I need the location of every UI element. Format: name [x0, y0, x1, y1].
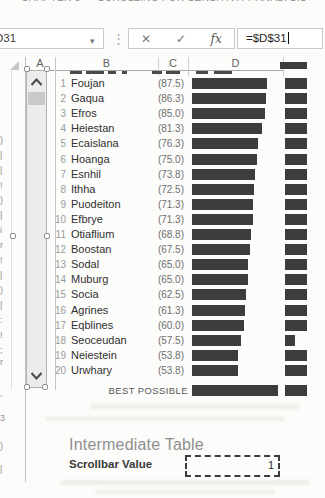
table-row[interactable]: 14 Muburg (65.0): [0, 272, 325, 287]
row-value: (72.5): [138, 182, 184, 197]
score-bar: [192, 93, 266, 104]
table-row[interactable]: 9 Puodeiton (71.3): [0, 197, 325, 212]
row-value: (62.5): [138, 287, 184, 302]
delta-bar: [285, 123, 307, 134]
best-delta-bar: [285, 385, 307, 396]
page-showthrough: [90, 404, 300, 409]
selection-handle[interactable]: [24, 66, 30, 72]
cancel-icon[interactable]: ✕: [141, 32, 151, 46]
column-header-c[interactable]: C: [158, 57, 188, 70]
table-row[interactable]: 7 Esnhil (73.8): [0, 167, 325, 182]
scroll-down-icon[interactable]: [29, 371, 44, 381]
delta-bar: [285, 138, 307, 149]
delta-bar: [285, 78, 307, 89]
clipped-glyph: |: [0, 211, 8, 220]
table-row[interactable]: 2 Gaqua (86.3): [0, 91, 325, 106]
column-header-d[interactable]: D: [188, 57, 283, 70]
clipped-text-mark: [108, 71, 116, 74]
selection-handle[interactable]: [44, 66, 50, 72]
row-value: (67.5): [138, 242, 184, 257]
delta-bar: [285, 244, 307, 255]
delta-bar: [285, 229, 307, 240]
row-name: Socia: [71, 287, 99, 302]
clipped-row-delta-bar: [280, 62, 307, 69]
scrollbar-value: 1: [187, 457, 278, 474]
delta-bar: [285, 274, 307, 285]
score-bar: [192, 365, 238, 376]
delta-bar: [285, 320, 307, 331]
table-row[interactable]: 20 Urwhary (53.8): [0, 363, 325, 378]
table-row[interactable]: 8 Ithha (72.5): [0, 182, 325, 197]
delta-bar: [285, 305, 307, 316]
selection-handle[interactable]: [10, 233, 16, 239]
clipped-glyph: |: [0, 151, 8, 160]
score-bar: [192, 108, 265, 119]
best-possible-label: BEST POSSIBLE: [80, 383, 188, 398]
gridline: [188, 57, 189, 76]
table-row[interactable]: 18 Seoceudan (57.5): [0, 333, 325, 348]
clipped-text-mark: [196, 71, 208, 74]
row-value: (81.3): [138, 121, 184, 136]
table-row[interactable]: 3 Efros (85.0): [0, 106, 325, 121]
clipped-glyph: |: [0, 166, 8, 175]
select-all-corner[interactable]: [10, 61, 19, 70]
excel-sheet-screenshot: CHAPTER 3 — SCROLLING FOR SENSITIVITY AN…: [0, 0, 325, 498]
score-bar: [192, 259, 248, 270]
table-row[interactable]: 13 Sodal (65.0): [0, 257, 325, 272]
scrollbar-thumb[interactable]: [28, 92, 45, 105]
scrollbar-value-label: Scrollbar Value: [69, 458, 152, 470]
selection-handle[interactable]: [44, 233, 50, 239]
enter-icon[interactable]: ✓: [176, 32, 186, 46]
best-possible-row[interactable]: BEST POSSIBLE: [0, 383, 325, 398]
clipped-text-mark: [86, 71, 104, 74]
chevron-down-icon[interactable]: ▾: [90, 32, 95, 51]
delta-bar: [285, 365, 307, 376]
row-value: (53.8): [138, 363, 184, 378]
clipped-text-mark: [152, 71, 162, 74]
name-box[interactable]: D31 ▾: [0, 28, 104, 49]
table-row[interactable]: 12 Boostan (67.5): [0, 242, 325, 257]
row-name: Agrines: [71, 303, 108, 318]
clipped-glyph: :: [0, 316, 8, 325]
row-name: Foujan: [71, 76, 105, 91]
row-name: Sodal: [71, 257, 99, 272]
score-bar: [192, 320, 244, 331]
row-value: (61.3): [138, 303, 184, 318]
table-row[interactable]: 1 Foujan (87.5): [0, 76, 325, 91]
table-row[interactable]: 17 Eqblines (60.0): [0, 318, 325, 333]
score-bar: [192, 199, 253, 210]
table-row[interactable]: 15 Socia (62.5): [0, 287, 325, 302]
row-value: (57.5): [138, 333, 184, 348]
table-row[interactable]: 6 Hoanga (75.0): [0, 152, 325, 167]
page-showthrough: [60, 480, 310, 485]
table-row[interactable]: 5 Ecaislana (76.3): [0, 136, 325, 151]
row-value: (65.0): [138, 272, 184, 287]
row-name: Esnhil: [71, 167, 101, 182]
formula-input[interactable]: =$D$31: [237, 28, 323, 49]
scroll-up-icon[interactable]: [29, 77, 44, 87]
clipped-glyph: |: [0, 271, 8, 280]
row-value: (71.3): [138, 212, 184, 227]
table-row[interactable]: 4 Heiestan (81.3): [0, 121, 325, 136]
selection-handle[interactable]: [42, 384, 48, 390]
score-bar: [192, 244, 250, 255]
table-row[interactable]: 10 Efbrye (71.3): [0, 212, 325, 227]
clipped-glyph: ): [0, 196, 8, 205]
column-header-b[interactable]: B: [55, 57, 158, 70]
insert-function-icon[interactable]: fx: [210, 32, 221, 46]
selection-handle[interactable]: [24, 384, 30, 390]
table-row[interactable]: 19 Neiestein (53.8): [0, 348, 325, 363]
row-name: Boostan: [71, 242, 111, 257]
score-bar: [192, 289, 246, 300]
scrollbar-control[interactable]: [26, 70, 47, 388]
delta-bar: [285, 350, 307, 361]
clipped-glyph: r: [0, 241, 8, 250]
delta-bar: [285, 108, 307, 119]
scrollbar-value-cell[interactable]: 1: [185, 455, 280, 477]
table-row[interactable]: 16 Agrines (61.3): [0, 303, 325, 318]
clipped-glyph: !: [0, 181, 8, 190]
formula-bar-divider-icon: ⋮: [112, 31, 125, 46]
row-name: Puodeiton: [71, 197, 121, 212]
delta-bar: [285, 169, 307, 180]
clipped-text-mark: [214, 71, 232, 74]
